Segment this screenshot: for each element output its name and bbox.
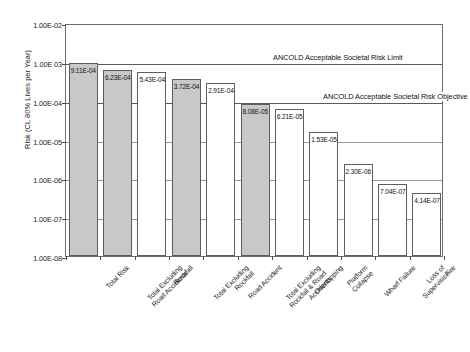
bar-4 (172, 79, 201, 256)
bar-6 (241, 104, 270, 256)
bar-value-label: 6.23E-04 (104, 74, 132, 82)
y-tick-label: 1.00E-05 (33, 137, 62, 146)
bar-5 (206, 83, 235, 256)
bar-7 (275, 109, 304, 256)
y-tick-mark (62, 180, 66, 181)
x-tick-mark (203, 256, 204, 260)
y-tick-mark (62, 64, 66, 65)
x-tick-mark (341, 256, 342, 260)
x-tick-mark (66, 256, 67, 260)
bar-1 (69, 63, 98, 256)
y-axis-title: Risk (CL 80% Lives per Year) (23, 25, 32, 175)
x-tick-mark (272, 256, 273, 260)
bar-value-label: 2.30E-06 (345, 168, 373, 176)
x-category-label: Wharf Failure (383, 264, 418, 299)
x-tick-mark (410, 256, 411, 260)
threshold-annotation: ANCOLD Acceptable Societal Risk Limit (271, 53, 405, 62)
x-category-label: Road Accident (246, 264, 283, 301)
threshold-annotation: ANCOLD Acceptable Societal Risk Objectiv… (321, 92, 470, 101)
plot-area: 1.00E-021.00E 031.00E-041.00E-051.00E-06… (65, 24, 443, 257)
bar-value-label: 2.91E-04 (207, 87, 235, 95)
bar-2 (103, 70, 132, 256)
y-tick-label: 1.00E 03 (34, 59, 62, 68)
bar-value-label: 5.43E-04 (138, 76, 166, 84)
x-category-label: Total ExcludingRockfall & RoadAccidents (282, 264, 334, 316)
y-tick-label: 1.00E-02 (33, 21, 62, 30)
y-tick-mark (62, 219, 66, 220)
y-tick-label: 1.00E-04 (33, 98, 62, 107)
bar-value-label: 8.08E-05 (242, 108, 270, 116)
x-category-label: Total ExcludingRockfall (213, 264, 257, 308)
bar-value-label: 9.11E-04 (70, 67, 97, 75)
x-tick-mark (444, 256, 445, 260)
bar-3 (137, 72, 166, 256)
bar-value-label: 3.72E-04 (173, 83, 201, 91)
x-tick-mark (135, 256, 136, 260)
y-tick-mark (62, 25, 66, 26)
y-tick-label: 1.00E-08 (33, 254, 62, 263)
x-category-label: PlatformCollapse (344, 264, 374, 294)
bar-value-label: 4.14E-07 (413, 197, 441, 205)
bar-value-label: 7.04E-07 (379, 188, 407, 196)
x-tick-mark (100, 256, 101, 260)
x-category-label: Total Risk (105, 264, 132, 291)
y-tick-mark (62, 103, 66, 104)
bar-9 (344, 164, 373, 256)
bar-value-label: 6.21E-05 (276, 113, 304, 121)
x-tick-mark (169, 256, 170, 260)
bar-8 (309, 132, 338, 256)
bar-value-label: 1.53E-05 (310, 136, 338, 144)
x-tick-mark (307, 256, 308, 260)
x-tick-mark (238, 256, 239, 260)
x-tick-mark (375, 256, 376, 260)
y-tick-label: 1.00E-07 (33, 215, 62, 224)
y-tick-label: 1.00E-06 (33, 176, 62, 185)
gridline (66, 64, 442, 65)
y-tick-mark (62, 142, 66, 143)
